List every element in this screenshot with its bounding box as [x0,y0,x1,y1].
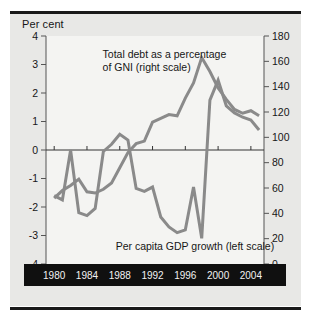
right-tick-label: 100 [272,131,290,143]
left-tick-label: 3 [32,58,38,70]
right-tick-label: 140 [272,80,290,92]
right-tick-label: 120 [272,106,290,118]
x-tick-label: 1996 [174,270,197,281]
right-tick-label: 40 [272,207,284,219]
right-tick-label: 160 [272,55,290,67]
right-tick-label: 80 [272,156,284,168]
left-tick-label: 0 [32,144,38,156]
gdp-annotation-line: Per capita GDP growth (left scale) [116,240,275,252]
x-tick-label: 2004 [240,270,263,281]
right-tick-label: 60 [272,182,284,194]
left-tick-label: -2 [29,201,38,213]
right-axis-ticks: 020406080100120140160180 [264,30,290,270]
x-tick-label: 2000 [207,270,230,281]
x-tick-label: 1980 [43,270,66,281]
x-tick-label: 1992 [141,270,164,281]
left-tick-label: 4 [32,30,38,42]
left-tick-label: 1 [32,115,38,127]
left-tick-label: -1 [29,172,38,184]
debt-annotation-line: of GNI (right scale) [103,61,191,73]
left-tick-label: -3 [29,229,38,241]
debt-annotation-line: Total debt as a percentage [103,48,227,60]
left-tick-label: 2 [32,87,38,99]
chart-svg: -4-3-2-101234 020406080100120140160180 1… [10,14,301,306]
x-tick-label: 1984 [76,270,99,281]
x-tick-label: 1988 [109,270,132,281]
left-axis-ticks: -4-3-2-101234 [29,30,46,270]
figure-container: Per cent -4-3-2-101234 02040608010012014… [0,0,311,328]
right-tick-label: 180 [272,30,290,42]
bottom-rule [10,307,301,310]
